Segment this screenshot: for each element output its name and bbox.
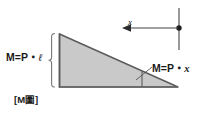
left-moment-label: M=P・ℓ xyxy=(6,52,43,64)
section-moment-label: M=P・x xyxy=(152,63,190,75)
moment-height-brace xyxy=(49,34,55,87)
section-moment-label-head: M=P・ xyxy=(152,62,184,74)
left-moment-label-head: M=P・ xyxy=(6,51,38,63)
left-moment-label-var: ℓ xyxy=(38,52,43,63)
distance-label: x xyxy=(128,18,132,27)
moment-triangle-shape xyxy=(60,34,179,87)
figure-caption: [M圖] xyxy=(14,95,38,105)
figure-canvas: M=P・ℓ M=P・x x [M圖] xyxy=(0,0,204,117)
section-moment-label-var: x xyxy=(184,63,189,74)
